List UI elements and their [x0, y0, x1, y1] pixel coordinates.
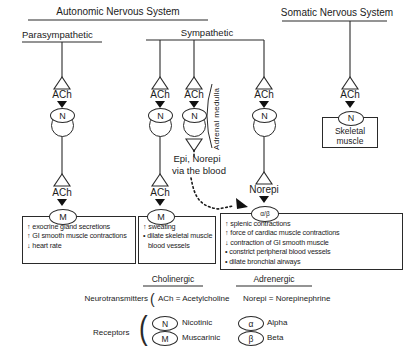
ganglion-sympathetic-3: N [249, 110, 279, 140]
effect-line: ↓ contraction of GI smooth muscle [225, 238, 399, 247]
parasympathetic-effects-box: ↑ exocrine gland secretions ↑ GI smooth … [22, 216, 136, 264]
effect-line: ↓ heart rate [27, 241, 132, 250]
receptors-bracket: ( [139, 309, 148, 348]
parasympathetic-label: Parasympathetic [22, 29, 93, 40]
cholinergic-header: Cholinergic [152, 274, 195, 284]
beta-legend-icon: β [238, 331, 264, 346]
muscarinic-receptor-icon: M [49, 209, 77, 225]
nicotinic-receptor-icon: N [252, 108, 277, 123]
ganglion-parasympathetic: N [47, 110, 77, 140]
autonomic-vs-somatic-diagram: Autonomic Nervous System Somatic Nervous… [0, 0, 403, 358]
via-the-blood-label: via the blood [172, 165, 226, 176]
ganglion-adrenal-medulla: N [179, 110, 209, 140]
adrenal-medulla-label: Adrenal medulla [212, 84, 221, 150]
nicotinic-legend-label: Nicotinic [182, 318, 212, 327]
ach-label-somatic: ACh [340, 89, 359, 100]
ach-label-sympathetic-lower: ACh [150, 187, 169, 198]
autonomic-title: Autonomic Nervous System [56, 6, 179, 17]
alpha-legend-icon: α [238, 316, 264, 331]
beta-legend-label: Beta [267, 333, 283, 342]
muscarinic-legend-label: Muscarinic [182, 333, 220, 342]
sympathetic-label: Sympathetic [181, 27, 233, 38]
nicotinic-receptor-icon: N [182, 108, 207, 123]
axon-lines [62, 21, 350, 175]
ach-label-parasympathetic-lower: ACh [52, 187, 71, 198]
somatic-title: Somatic Nervous System [281, 7, 393, 18]
ach-label-sympathetic-1: ACh [150, 89, 169, 100]
ach-label-sympathetic-2: ACh [184, 89, 203, 100]
sympathetic-adrenergic-effects-box: ↑ splenic contractions ↑ force of cardia… [220, 213, 403, 270]
norepi-definition: Norepi = Norepinephrine [243, 294, 330, 303]
effect-line: • dilate bronchial airways [225, 257, 399, 266]
effect-line: blood vessels [143, 241, 212, 250]
neurotransmitters-bracket: ( [150, 291, 155, 307]
sympathetic-cholinergic-effects-box: ↑ sweating • dilate skeletal muscle bloo… [138, 216, 216, 264]
effect-line: ↑ GI smooth muscle contractions [27, 231, 132, 240]
ganglion-sympathetic-1: N [145, 110, 175, 140]
muscarinic-receptor-icon: M [147, 209, 175, 225]
connector-lines [0, 0, 403, 358]
alpha-legend-label: Alpha [267, 318, 287, 327]
adrenergic-receptor-icon: α/β [251, 206, 279, 222]
neurotransmitters-label: Neurotransmitters [60, 294, 148, 303]
adrenergic-header: Adrenergic [253, 274, 294, 284]
ach-label-sympathetic-3: ACh [254, 89, 273, 100]
effect-line: ↑ exocrine gland secretions [27, 222, 132, 231]
effect-line: ↑ splenic contractions [225, 219, 399, 228]
nicotinic-receptor-icon: N [50, 108, 75, 123]
receptors-label: Receptors [93, 328, 129, 337]
nicotinic-receptor-icon: N [148, 108, 173, 123]
effect-line: • dilate skeletal muscle [143, 231, 212, 240]
ach-definition: ACh = Acetylcholine [158, 294, 229, 303]
muscarinic-legend-icon: M [152, 331, 178, 346]
nicotinic-legend-icon: N [152, 316, 178, 331]
norepi-label: Norepi [249, 184, 278, 195]
epi-norepi-label: Epi, Norepi [174, 153, 221, 164]
nicotinic-receptor-icon-somatic: N [338, 111, 364, 126]
effect-line: ↑ force of cardiac muscle contractions [225, 228, 399, 237]
ach-label-parasympathetic: ACh [52, 89, 71, 100]
effect-line: • constrict peripheral blood vessels [225, 247, 399, 256]
